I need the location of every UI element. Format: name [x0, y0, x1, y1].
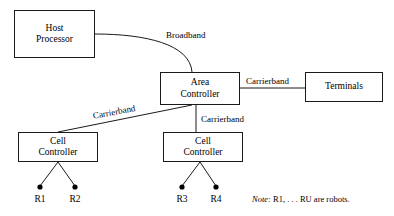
node-host-processor[interactable]: Host Processor: [14, 10, 95, 58]
node-terminals[interactable]: Terminals: [305, 72, 383, 102]
robot-label-r4: R4: [206, 194, 226, 204]
node-cell-controller-left[interactable]: Cell Controller: [18, 132, 98, 162]
node-area-controller-line-2: Controller: [180, 89, 219, 100]
robot-node-dot-r2: [72, 184, 77, 189]
edge-cell-right-to-r3-line: [182, 162, 200, 186]
edge-label-carrierband-terminals: Carrierband: [245, 76, 290, 86]
robot-label-r3: R3: [172, 194, 192, 204]
robot-label-r1: R1: [30, 194, 50, 204]
node-area-controller[interactable]: Area Controller: [160, 72, 240, 105]
node-cell-controller-right-line-1: Cell: [195, 136, 211, 147]
robot-label-r2: R2: [65, 194, 85, 204]
node-terminals-line-1: Terminals: [325, 81, 363, 92]
edge-cell-right-to-r4-line: [200, 162, 216, 186]
node-cell-controller-left-line-2: Controller: [38, 147, 77, 158]
network-architecture-diagram: Host Processor Area Controller Terminals…: [0, 0, 394, 216]
edge-cell-left-to-r1-line: [40, 162, 58, 186]
edge-label-carrierband-cell-right: Carrierband: [200, 114, 245, 124]
edge-label-broadband: Broadband: [165, 30, 207, 40]
robot-node-dot-r3: [179, 184, 184, 189]
diagram-note: Note: R1, . . . RU are robots.: [252, 194, 350, 204]
node-area-controller-line-1: Area: [191, 77, 209, 88]
robot-node-dot-r4: [213, 184, 218, 189]
node-host-processor-line-2: Processor: [36, 34, 73, 45]
node-host-processor-line-1: Host: [46, 23, 64, 34]
node-cell-controller-right[interactable]: Cell Controller: [163, 132, 243, 162]
node-cell-controller-right-line-2: Controller: [183, 147, 222, 158]
diagram-note-text: R1, . . . RU are robots.: [273, 194, 350, 204]
robot-node-dot-r1: [37, 184, 42, 189]
edge-cell-left-to-r2-line: [58, 162, 75, 186]
diagram-note-keyword: Note:: [252, 194, 271, 204]
node-cell-controller-left-line-1: Cell: [50, 136, 66, 147]
